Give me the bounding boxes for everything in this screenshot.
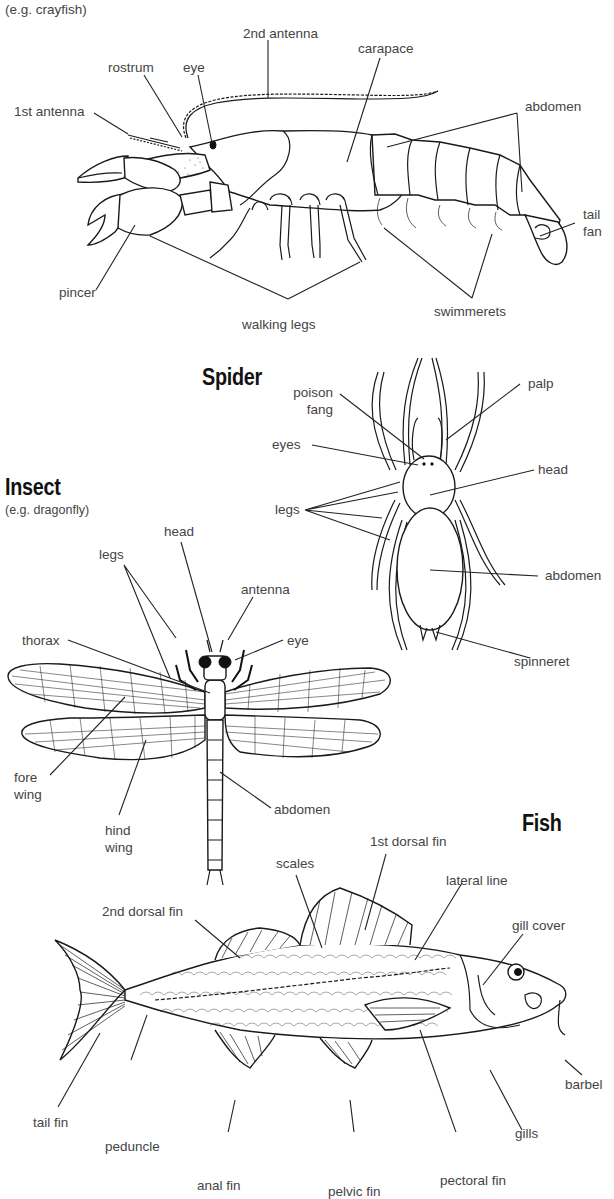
label-eyes-spider: eyes xyxy=(272,437,301,452)
label-fore-wing-1: fore xyxy=(14,770,37,785)
label-carapace: carapace xyxy=(358,41,414,56)
label-palp: palp xyxy=(528,376,554,391)
label-eye-crayfish: eye xyxy=(183,60,205,75)
label-walking-legs: walking legs xyxy=(242,317,316,332)
label-anal-fin: anal fin xyxy=(197,1178,241,1193)
fish-title: Fish xyxy=(522,810,562,837)
label-pincer: pincer xyxy=(59,285,96,300)
label-peduncle: peduncle xyxy=(105,1139,160,1154)
label-tail-fan-1: tail xyxy=(583,207,600,222)
label-hind-wing-1: hind xyxy=(105,823,131,838)
label-gills: gills xyxy=(515,1126,538,1141)
label-scales: scales xyxy=(276,856,314,871)
label-fore-wing-2: wing xyxy=(14,787,42,802)
label-tail-fin: tail fin xyxy=(33,1115,68,1130)
label-abdomen-spider: abdomen xyxy=(545,568,601,583)
label-antenna-insect: antenna xyxy=(241,582,290,597)
insect-subtitle: (e.g. dragonfly) xyxy=(5,503,89,517)
label-thorax: thorax xyxy=(22,633,60,648)
label-head-spider: head xyxy=(538,462,568,477)
label-pectoral-fin: pectoral fin xyxy=(440,1173,506,1188)
label-legs-insect: legs xyxy=(99,547,124,562)
dragonfly-drawing xyxy=(8,640,390,885)
label-eye-insect: eye xyxy=(287,633,309,648)
label-swimmerets: swimmerets xyxy=(434,304,506,319)
label-1st-antenna: 1st antenna xyxy=(14,104,85,119)
label-gill-cover: gill cover xyxy=(512,918,565,933)
label-abdomen-crayfish: abdomen xyxy=(525,99,581,114)
label-head-insect: head xyxy=(164,524,194,539)
label-2nd-dorsal-fin: 2nd dorsal fin xyxy=(102,904,183,919)
label-spinneret: spinneret xyxy=(514,654,570,669)
crayfish-drawing xyxy=(78,91,567,264)
label-legs-spider: legs xyxy=(275,502,300,517)
label-pelvic-fin: pelvic fin xyxy=(328,1184,381,1199)
crayfish-subtitle: (e.g. crayfish) xyxy=(5,2,87,17)
label-barbel: barbel xyxy=(565,1077,603,1092)
label-poison-fang-2: fang xyxy=(288,402,333,417)
spider-title: Spider xyxy=(202,364,262,391)
label-1st-dorsal-fin: 1st dorsal fin xyxy=(370,834,447,849)
label-2nd-antenna: 2nd antenna xyxy=(243,26,318,41)
insect-title: Insect xyxy=(5,474,61,501)
label-rostrum: rostrum xyxy=(108,60,154,75)
spider-drawing xyxy=(372,358,505,650)
label-poison-fang-1: poison xyxy=(288,385,333,400)
label-lateral-line: lateral line xyxy=(446,873,508,888)
label-abdomen-insect: abdomen xyxy=(274,802,330,817)
label-hind-wing-2: wing xyxy=(105,840,133,855)
label-tail-fan-2: fan xyxy=(583,224,602,239)
